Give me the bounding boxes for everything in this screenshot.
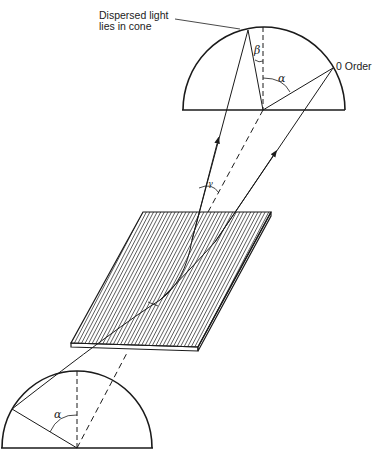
alpha-bottom-label: α <box>54 408 62 421</box>
gamma-label: γ <box>208 179 213 188</box>
zero-order-label: 0 Order <box>336 60 372 72</box>
grating-ruling-line <box>254 210 327 350</box>
grating-ruling-line <box>236 210 309 350</box>
grating-ruling-line <box>240 210 313 350</box>
alpha-arc-top <box>263 78 290 92</box>
grating-ruling-line <box>269 210 342 350</box>
grating-diagram: Dispersed light lies in cone 0 Order β α… <box>0 0 382 455</box>
grating-ruling-line <box>272 210 345 350</box>
grating-ruling-line <box>283 210 356 350</box>
grating-ruling-line <box>244 210 317 350</box>
beta-label: β <box>253 44 260 57</box>
grating-ruling-line <box>229 210 302 350</box>
zero-order-ray-arrow <box>215 153 275 242</box>
grating-normal-dashed-bottom <box>77 351 128 448</box>
output-hemisphere-arc <box>183 27 345 110</box>
grating-ruling-line <box>265 210 338 350</box>
grating-normal-dashed-top <box>208 110 263 212</box>
beta-arc <box>255 60 263 62</box>
alpha-top-label: α <box>278 72 286 85</box>
grating-ruling-line <box>258 210 331 350</box>
dispersed-light-label-line2: lies in cone <box>99 20 152 32</box>
zero-order-ray-in-hemisphere <box>263 68 333 110</box>
label-leader-line <box>175 19 240 29</box>
grating-ruling-line <box>280 210 353 350</box>
diffraction-grating <box>60 210 360 351</box>
dispersed-ray-arrow <box>192 140 218 240</box>
grating-ruling-line <box>276 210 349 350</box>
grating-ruling-line <box>262 210 335 350</box>
grating-ruling-line <box>287 210 360 350</box>
incident-radius <box>12 409 77 448</box>
output-hemisphere <box>182 27 345 110</box>
grating-ruling-line <box>233 210 306 350</box>
dispersed-ray-in-hemisphere <box>248 30 263 110</box>
grating-ruling-line <box>247 210 320 350</box>
